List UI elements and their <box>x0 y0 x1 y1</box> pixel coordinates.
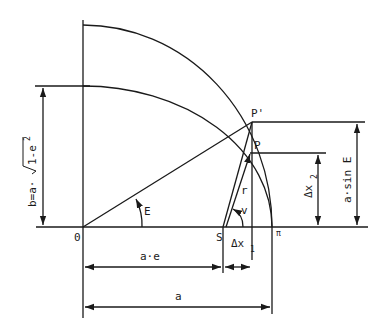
line-origin-to-p-prime <box>83 122 252 227</box>
angle-e-label: E <box>144 205 151 218</box>
angle-e-arc <box>136 199 142 227</box>
semi-minor-label: b=a· 1-e 2 <box>23 136 39 207</box>
origin-label: 0 <box>74 231 81 244</box>
radius-vector-label: r <box>241 184 248 197</box>
svg-text:1-e: 1-e <box>26 145 39 165</box>
svg-text:1: 1 <box>250 245 255 254</box>
delta-x2-label: Δx 2 <box>302 174 319 198</box>
svg-text:a·sin E: a·sin E <box>341 157 354 203</box>
svg-text:Δx: Δx <box>302 184 315 198</box>
svg-text:2: 2 <box>23 136 32 141</box>
ellipse-diagram: 0 S π P' P E v r a·e a Δx 1 Δx 2 a·sin E… <box>0 0 383 327</box>
svg-text:b=a·: b=a· <box>26 181 39 208</box>
focal-distance-label: a·e <box>140 250 160 263</box>
svg-text:Δx: Δx <box>231 237 245 250</box>
p-label: P <box>254 139 261 152</box>
a-sin-e-label: a·sin E <box>341 157 354 203</box>
focus-label: S <box>216 231 223 244</box>
semi-major-label: a <box>175 290 182 303</box>
angle-v-label: v <box>241 204 248 217</box>
p-prime-label: P' <box>251 107 264 120</box>
svg-text:2: 2 <box>310 174 319 179</box>
perihelion-label: π <box>276 229 281 238</box>
